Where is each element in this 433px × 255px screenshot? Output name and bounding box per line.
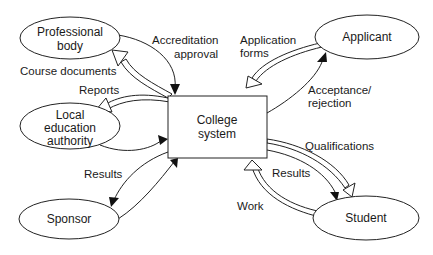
node-label: education (44, 121, 96, 135)
label-accreditation: Accreditation (152, 34, 218, 46)
node-label: Local (56, 108, 85, 122)
node-professional-body[interactable]: Professional body (20, 17, 120, 59)
center-label: College (197, 113, 238, 127)
node-label: Student (345, 211, 387, 225)
node-student[interactable]: Student (313, 196, 419, 240)
center-label: system (198, 127, 236, 141)
context-diagram: Professional body Local education author… (0, 0, 433, 255)
label-application: Application (240, 34, 296, 46)
label-qualifications: Qualifications (305, 140, 374, 152)
flow-course-documents (112, 50, 172, 98)
label-forms: forms (240, 47, 269, 59)
node-label: Applicant (342, 30, 392, 44)
center-college-system[interactable]: College system (168, 96, 267, 158)
node-label: Sponsor (47, 212, 92, 226)
label-work: Work (237, 200, 264, 212)
node-label: body (57, 39, 83, 53)
label-results-sponsor: Results (84, 168, 123, 180)
node-label: Professional (37, 25, 103, 39)
label-reports: Reports (79, 84, 120, 96)
node-sponsor[interactable]: Sponsor (19, 199, 119, 239)
label-results-student: Results (272, 167, 311, 179)
label-acceptance: Acceptance/ (308, 84, 372, 96)
flow-sponsor-to-college (118, 158, 178, 219)
flow-reports (96, 95, 170, 112)
label-course-documents: Course documents (20, 65, 117, 77)
label-approval: approval (174, 48, 218, 60)
label-rejection: rejection (308, 97, 351, 109)
node-local-education-authority[interactable]: Local education authority (20, 103, 120, 149)
node-label: authority (47, 134, 93, 148)
node-applicant[interactable]: Applicant (315, 15, 419, 59)
